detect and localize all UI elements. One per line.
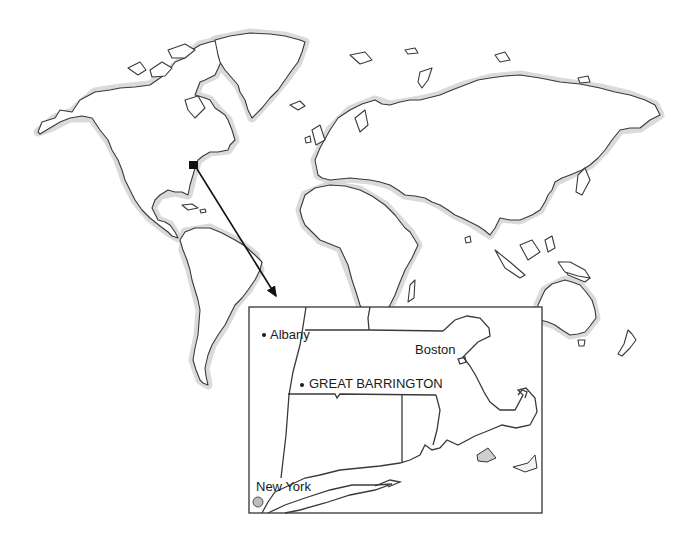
great-barrington-dot (300, 383, 304, 387)
label-boston: Boston (415, 342, 455, 357)
world-map (0, 0, 691, 548)
albany-dot (262, 333, 266, 337)
location-marker (189, 161, 198, 169)
africa (300, 185, 418, 322)
label-great-barrington: GREAT BARRINGTON (309, 376, 443, 391)
label-new-york: New York (256, 479, 311, 494)
label-albany: Albany (270, 327, 310, 342)
